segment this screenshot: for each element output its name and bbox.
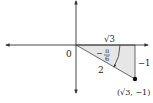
angle-numerator: π: [105, 47, 110, 55]
origin-label: 0: [66, 49, 72, 59]
angle-sign: −: [96, 49, 103, 58]
angle-denominator: 6: [105, 55, 109, 63]
point-label: (√3, −1): [117, 88, 150, 97]
unit-triangle-diagram: 0 √3 −1 2 − π 6 (√3, −1): [0, 0, 153, 103]
adjacent-label: √3: [104, 34, 115, 44]
opposite-label: −1: [138, 58, 151, 68]
hypotenuse-label: 2: [98, 65, 104, 75]
point-marker: [133, 77, 137, 81]
